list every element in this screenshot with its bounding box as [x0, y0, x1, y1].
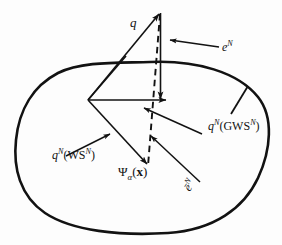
label-psi-alpha: Ψα(x)	[118, 165, 147, 181]
pointer-eN-shaft	[170, 40, 219, 47]
figure-canvas: q eN qN(GWSN) qN(WSN) Ψα(x) ēN	[0, 0, 282, 245]
leader-q-gws	[231, 86, 248, 114]
pointer-ebar-shaft	[151, 136, 200, 182]
label-e-n: eN	[222, 40, 233, 53]
label-q-ws: qN(WSN)	[52, 148, 95, 161]
pointer-psi-upper-shaft	[144, 108, 202, 134]
vector-qws-shaft	[88, 100, 147, 164]
label-q-gws: qN(GWSN)	[208, 119, 260, 132]
label-q: q	[130, 16, 137, 29]
